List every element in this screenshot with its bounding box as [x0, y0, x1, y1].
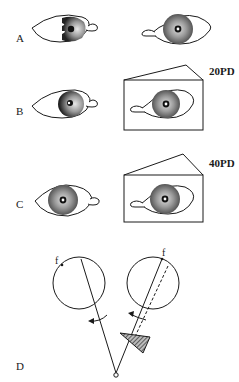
panel-a: A [16, 14, 211, 44]
panel-a-label: A [16, 32, 24, 44]
panel-c: C 40PD [16, 154, 235, 222]
left-fovea-dot [61, 264, 64, 267]
left-eye-deviated-icon [32, 15, 97, 42]
right-visual-axis [116, 259, 162, 373]
right-globe-icon [127, 257, 179, 309]
right-eye-behind-prism-icon [131, 90, 194, 118]
right-deviated-axis-dashed [133, 266, 168, 341]
panel-b: B 20PD [16, 65, 235, 130]
panel-d-label: D [16, 360, 24, 372]
fixation-target-icon [114, 373, 118, 377]
left-visual-axis [81, 259, 116, 373]
panel-d: D f f [16, 247, 179, 377]
prism-box-40pd [124, 154, 203, 222]
prism-wedge-icon [120, 333, 150, 353]
left-eye-centered-icon [35, 185, 99, 216]
strabismus-prism-diagram: A B 20PD [0, 0, 239, 382]
right-eye-behind-prism-centered-icon [131, 184, 194, 214]
prism-strength-40pd: 40PD [209, 157, 235, 169]
panel-b-label: B [16, 105, 23, 117]
prism-strength-20pd: 20PD [209, 65, 235, 77]
left-fovea-label: f [55, 255, 59, 266]
left-eye-partial-deviation-icon [32, 90, 97, 118]
right-eye-fixating-icon [142, 14, 211, 44]
right-fovea-label: f [162, 247, 166, 258]
panel-c-label: C [16, 198, 23, 210]
prism-box-20pd [124, 65, 203, 130]
